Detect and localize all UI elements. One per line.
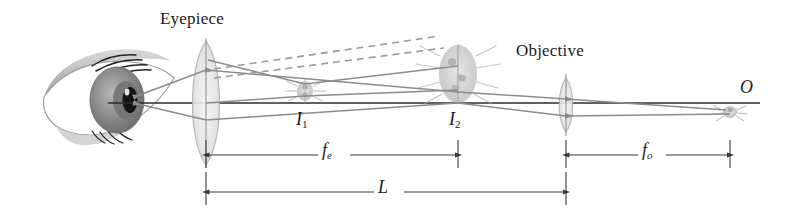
image-one-label: I1 [296, 110, 308, 130]
focal-objective-label: fo [642, 141, 653, 161]
microscope-ray-diagram: Eyepiece Objective O I1 I2 fe fo L [0, 0, 788, 223]
objective-label: Objective [516, 42, 584, 59]
tube-length-label: L [378, 178, 388, 196]
image-two-subscript: 2 [455, 118, 461, 130]
focal-objective-subscript: o [647, 149, 653, 161]
ray-bundle [134, 60, 730, 120]
intermediate-image-two [416, 44, 500, 104]
dimension-focal-eyepiece [206, 140, 458, 168]
focal-eyepiece-subscript: e [327, 149, 332, 161]
image-one-subscript: 1 [302, 118, 308, 130]
axis-point-label: O [740, 78, 753, 96]
eye-illustration [44, 49, 175, 145]
eyepiece-label: Eyepiece [160, 10, 224, 27]
image-two-label: I2 [449, 110, 461, 130]
diagram-canvas [0, 0, 788, 223]
objective-lens [559, 74, 573, 136]
focal-eyepiece-label: fe [322, 141, 332, 161]
